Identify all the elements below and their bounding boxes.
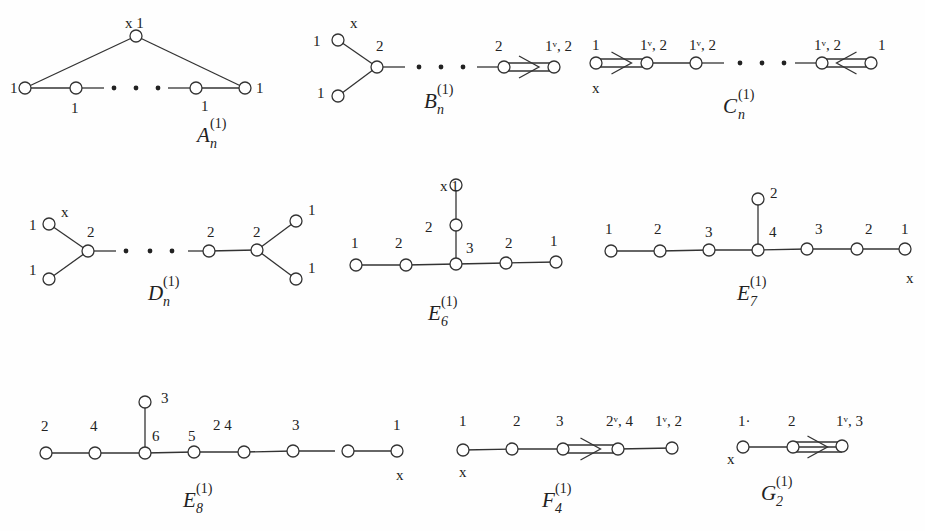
diagram-node xyxy=(752,244,764,256)
diagram-name: B xyxy=(424,89,437,113)
node-mark-label: 2 xyxy=(425,219,433,235)
diagram-node xyxy=(342,445,354,457)
edge xyxy=(145,452,194,453)
diagram-node xyxy=(801,243,813,255)
diagram-superscript: (1) xyxy=(163,274,180,290)
node-mark-label: 2ᵛ, 4 xyxy=(606,413,633,429)
node-mark-label: 3 xyxy=(466,240,474,256)
node-mark-label: 1 xyxy=(313,33,321,49)
diagram-node xyxy=(605,245,617,257)
node-mark-label: 2 xyxy=(513,413,521,429)
node-mark-label: x 1 xyxy=(440,178,459,194)
diagram-node xyxy=(43,273,55,285)
diagram-node xyxy=(457,444,469,456)
double-bond-left xyxy=(596,52,647,74)
node-mark-label: 1 xyxy=(29,217,37,233)
edge xyxy=(209,250,257,251)
diagram-node xyxy=(188,446,200,458)
extending-node-marker: x xyxy=(350,15,358,31)
diagram-subscript: n xyxy=(738,107,745,122)
diagram-node xyxy=(450,219,462,231)
diagram-node xyxy=(82,245,94,257)
extending-node-marker: x xyxy=(459,464,467,480)
diagram-superscript: (1) xyxy=(776,474,793,490)
diagram-superscript: (1) xyxy=(738,87,755,103)
node-mark-label: 1 xyxy=(550,233,558,249)
diagram-node xyxy=(641,57,653,69)
arrow-right-icon xyxy=(612,52,632,74)
diagram-node xyxy=(139,396,151,408)
node-mark-label: 2 xyxy=(505,235,513,251)
edge xyxy=(244,451,293,452)
ellipsis-dot xyxy=(156,86,161,91)
diagram-node xyxy=(19,82,31,94)
diagram-name: C xyxy=(723,94,738,118)
node-mark-label: 2 xyxy=(770,185,778,201)
diagram-name: E xyxy=(427,301,441,325)
ellipsis-dot xyxy=(134,86,139,91)
node-mark-label: 1 xyxy=(71,100,79,116)
diagram-node xyxy=(43,218,55,230)
diagram-e8: 24652 4313xE8(1) xyxy=(40,390,404,516)
diagram-node xyxy=(391,445,403,457)
diagram-node xyxy=(89,447,101,459)
diagram-node xyxy=(332,34,344,46)
diagram-subscript: 2 xyxy=(776,494,783,509)
triple-bond xyxy=(793,436,842,458)
diagram-subscript: 6 xyxy=(441,314,448,329)
node-mark-label: 2 xyxy=(253,224,261,240)
node-mark-label: 2 xyxy=(495,38,503,54)
node-mark-label: 2 xyxy=(87,224,95,240)
diagram-subscript: n xyxy=(210,136,217,151)
diagram-node xyxy=(450,258,462,270)
node-mark-label: 1ᵛ, 2 xyxy=(655,413,682,429)
ellipsis-dot xyxy=(738,61,743,66)
node-mark-label: 2 4 xyxy=(213,417,232,433)
edge xyxy=(506,262,556,263)
edge xyxy=(618,448,672,449)
node-mark-label: 4 xyxy=(769,224,777,240)
diagram-node xyxy=(752,193,764,205)
diagram-node xyxy=(130,30,142,42)
extending-node-marker: x xyxy=(906,270,914,286)
edge xyxy=(456,263,506,264)
node-mark-label: 1ᵛ, 3 xyxy=(836,413,863,429)
diagram-subscript: n xyxy=(163,294,170,309)
diagram-e6: 123212x 1E6(1) xyxy=(350,178,562,329)
diagram-c: 11ᵛ, 21ᵛ, 21ᵛ, 21xCn(1) xyxy=(590,37,886,122)
edge xyxy=(406,264,456,265)
node-mark-label: 1 xyxy=(29,262,37,278)
diagram-node xyxy=(371,61,383,73)
diagram-node xyxy=(737,441,749,453)
edge xyxy=(463,449,512,450)
edge xyxy=(758,249,807,250)
extending-node-marker: x xyxy=(396,467,404,483)
ellipsis-dot xyxy=(782,61,787,66)
diagram-superscript: (1) xyxy=(437,82,454,98)
diagram-name: D xyxy=(147,281,163,305)
diagram-node xyxy=(203,245,215,257)
diagram-b: 11221ᵛ, 2xBn(1) xyxy=(313,15,572,117)
edge xyxy=(257,221,296,250)
node-mark-label: 2 xyxy=(654,221,662,237)
node-mark-label: 2 xyxy=(41,418,49,434)
arrow-right-icon xyxy=(581,438,601,460)
diagram-node xyxy=(500,257,512,269)
ellipsis-dot xyxy=(124,249,129,254)
double-bond xyxy=(504,56,554,78)
edge xyxy=(49,251,88,279)
diagram-superscript: (1) xyxy=(750,274,767,290)
edge xyxy=(338,40,377,67)
diagram-subscript: 8 xyxy=(196,501,203,516)
diagram-name: G xyxy=(761,481,776,505)
double-bond xyxy=(563,438,618,460)
node-mark-label: 1ᵛ, 2 xyxy=(689,37,716,53)
arrow-right-icon xyxy=(519,56,539,78)
diagram-node xyxy=(654,245,666,257)
node-mark-label: 1· xyxy=(738,413,751,429)
diagram-subscript: 7 xyxy=(750,294,758,309)
arrow-left-icon xyxy=(837,52,857,74)
diagram-name: A xyxy=(195,123,210,147)
node-mark-label: 2 xyxy=(788,413,796,429)
edge xyxy=(25,36,136,88)
